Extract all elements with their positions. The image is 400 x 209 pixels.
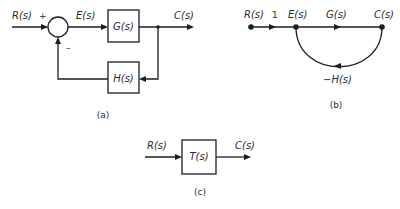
control-diagram-canvas: R(s) + – E(s) G(s) C(s) H(s) (a)	[0, 0, 400, 209]
arrowhead-icon	[139, 76, 146, 82]
node-error	[293, 24, 299, 30]
transfer-block-label: T(s)	[189, 151, 208, 162]
arrowhead-icon	[244, 154, 251, 160]
output-label: C(s)	[235, 140, 255, 151]
arrowhead-icon	[41, 24, 48, 30]
minus-sign: –	[66, 43, 71, 53]
arrowhead-icon	[175, 154, 182, 160]
output-label: C(s)	[174, 10, 194, 21]
plus-sign: +	[39, 11, 47, 21]
feedback-block-label: H(s)	[113, 73, 134, 84]
branch-unity-label: 1	[272, 10, 278, 20]
arrowhead-icon	[101, 24, 108, 30]
panel-a-block-diagram: R(s) + – E(s) G(s) C(s) H(s) (a)	[12, 10, 194, 120]
node-output-label: C(s)	[374, 9, 394, 20]
node-error-label: E(s)	[288, 9, 307, 20]
feedback-path-right	[141, 27, 158, 79]
node-input	[248, 24, 254, 30]
branch-feedback-arc	[296, 27, 382, 67]
summing-junction	[48, 17, 68, 37]
arrowhead-icon	[334, 63, 341, 69]
caption-c: (c)	[194, 187, 206, 197]
arrowhead-icon	[187, 24, 194, 30]
input-label: R(s)	[12, 10, 32, 21]
branch-forward-label: G(s)	[326, 9, 347, 20]
panel-b-signal-flow-graph: R(s) 1 E(s) G(s) C(s) −H(s) (b)	[244, 9, 394, 110]
forward-block-label: G(s)	[113, 21, 134, 32]
arrowhead-icon	[269, 24, 276, 30]
input-label: R(s)	[147, 140, 167, 151]
caption-a: (a)	[97, 110, 110, 120]
caption-b: (b)	[330, 100, 343, 110]
branch-feedback-label: −H(s)	[323, 74, 352, 85]
arrowhead-icon	[55, 37, 61, 44]
panel-c-equivalent-block: R(s) T(s) C(s) (c)	[145, 140, 255, 197]
node-input-label: R(s)	[244, 9, 264, 20]
node-output	[379, 24, 385, 30]
arrowhead-icon	[334, 24, 341, 30]
error-label: E(s)	[76, 10, 95, 21]
